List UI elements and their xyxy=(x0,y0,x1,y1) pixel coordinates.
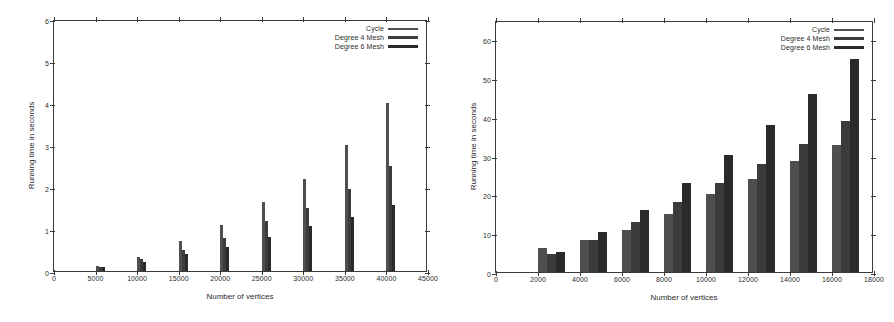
legend-left: CycleDegree 4 MeshDegree 6 Mesh xyxy=(335,25,418,50)
legend-swatch-line xyxy=(834,37,864,40)
bar-right-8000-series-2 xyxy=(682,183,691,272)
legend-swatch-line xyxy=(834,29,864,31)
x-tick-label: 10000 xyxy=(696,276,716,283)
y-tick-mark xyxy=(50,189,55,190)
bar-right-4000-series-0 xyxy=(580,240,589,272)
legend-entry: Cycle xyxy=(366,25,418,32)
y-tick-mark-right xyxy=(871,41,876,42)
bar-left-25000-series-2 xyxy=(268,237,271,271)
bar-left-15000-series-2 xyxy=(185,254,188,271)
plot-frame-right: CycleDegree 4 MeshDegree 6 Mesh 01020304… xyxy=(495,21,873,273)
y-tick-label: 3 xyxy=(45,144,49,151)
bar-right-4000-series-2 xyxy=(598,232,607,272)
x-tick-mark-top xyxy=(706,18,707,23)
x-tick-label: 0 xyxy=(494,276,498,283)
bar-right-16000-series-0 xyxy=(832,145,841,272)
x-tick-mark-top xyxy=(96,17,97,22)
y-tick-label: 50 xyxy=(483,77,491,84)
bar-right-10000-series-1 xyxy=(715,183,724,272)
y-tick-mark-right xyxy=(425,231,430,232)
x-tick-mark-top xyxy=(262,17,263,22)
bar-left-40000-series-2 xyxy=(392,205,395,271)
legend-entry: Degree 6 Mesh xyxy=(335,43,418,50)
x-tick-mark-top xyxy=(874,18,875,23)
x-tick-label: 2000 xyxy=(530,276,546,283)
bar-right-8000-series-1 xyxy=(673,202,682,272)
x-tick-label: 6000 xyxy=(614,276,630,283)
chart-panel-right: CycleDegree 4 MeshDegree 6 Mesh 01020304… xyxy=(447,0,894,322)
bar-right-4000-series-1 xyxy=(589,240,598,272)
y-tick-label: 4 xyxy=(45,102,49,109)
legend-label: Degree 4 Mesh xyxy=(781,35,830,42)
legend-label: Degree 6 Mesh xyxy=(781,44,830,51)
bar-left-35000-series-2 xyxy=(351,217,354,271)
x-tick-label: 0 xyxy=(52,275,56,282)
legend-label: Degree 6 Mesh xyxy=(335,43,384,50)
x-tick-mark-top xyxy=(496,18,497,23)
chart-panel-left: CycleDegree 4 MeshDegree 6 Mesh 01234560… xyxy=(0,0,447,322)
plot-area-left xyxy=(54,21,426,271)
x-tick-label: 25000 xyxy=(252,275,272,282)
x-tick-label: 10000 xyxy=(127,275,147,282)
y-tick-label: 2 xyxy=(45,186,49,193)
x-tick-label: 18000 xyxy=(864,276,884,283)
x-tick-mark-top xyxy=(303,17,304,22)
x-tick-label: 5000 xyxy=(88,275,104,282)
y-tick-mark-right xyxy=(871,196,876,197)
plot-area-right xyxy=(496,22,872,272)
legend-label: Degree 4 Mesh xyxy=(335,34,384,41)
bar-left-5000-series-2 xyxy=(102,267,105,271)
y-tick-mark xyxy=(50,63,55,64)
x-tick-mark-top xyxy=(220,17,221,22)
x-tick-label: 15000 xyxy=(169,275,189,282)
bar-right-6000-series-1 xyxy=(631,222,640,272)
bar-right-6000-series-2 xyxy=(640,210,649,272)
x-tick-mark-top xyxy=(179,17,180,22)
figure-two-panel-bar-charts: CycleDegree 4 MeshDegree 6 Mesh 01234560… xyxy=(0,0,894,322)
bar-right-12000-series-1 xyxy=(757,164,766,272)
y-tick-label: 0 xyxy=(45,270,49,277)
bar-right-16000-series-2 xyxy=(850,59,859,272)
x-tick-mark-top xyxy=(748,18,749,23)
legend-entry: Degree 4 Mesh xyxy=(335,34,418,41)
x-tick-label: 30000 xyxy=(293,275,313,282)
legend-label: Cycle xyxy=(366,25,384,32)
y-tick-label: 5 xyxy=(45,60,49,67)
x-tick-label: 12000 xyxy=(738,276,758,283)
y-tick-label: 20 xyxy=(483,193,491,200)
y-tick-label: 0 xyxy=(487,271,491,278)
y-tick-mark-right xyxy=(425,189,430,190)
y-tick-label: 40 xyxy=(483,115,491,122)
y-tick-mark xyxy=(50,147,55,148)
y-tick-label: 60 xyxy=(483,38,491,45)
x-tick-mark-top xyxy=(538,18,539,23)
y-tick-mark-right xyxy=(871,80,876,81)
bar-right-14000-series-0 xyxy=(790,161,799,272)
legend-swatch-line xyxy=(388,28,418,30)
bar-right-12000-series-2 xyxy=(766,125,775,272)
legend-entry: Degree 6 Mesh xyxy=(781,44,864,51)
y-tick-mark-right xyxy=(871,235,876,236)
x-tick-mark-top xyxy=(664,18,665,23)
x-axis-title-right: Number of vertices xyxy=(495,293,873,302)
legend-entry: Degree 4 Mesh xyxy=(781,35,864,42)
legend-entry: Cycle xyxy=(812,26,864,33)
x-tick-mark-top xyxy=(790,18,791,23)
x-tick-label: 4000 xyxy=(572,276,588,283)
x-axis-title-left: Number of vertices xyxy=(53,292,427,301)
y-axis-title-right: Running time in seconds xyxy=(469,67,478,227)
y-tick-mark xyxy=(492,119,497,120)
y-tick-mark-right xyxy=(871,119,876,120)
x-tick-label: 16000 xyxy=(822,276,842,283)
plot-frame-left: CycleDegree 4 MeshDegree 6 Mesh 01234560… xyxy=(53,20,427,272)
x-tick-mark-top xyxy=(345,17,346,22)
y-tick-mark-right xyxy=(425,63,430,64)
x-tick-mark-top xyxy=(137,17,138,22)
bar-right-12000-series-0 xyxy=(748,179,757,272)
x-tick-label: 40000 xyxy=(376,275,396,282)
bar-right-14000-series-2 xyxy=(808,94,817,272)
x-tick-label: 45000 xyxy=(418,275,438,282)
legend-label: Cycle xyxy=(812,26,830,33)
bar-right-2000-series-0 xyxy=(538,248,547,272)
bar-right-10000-series-2 xyxy=(724,155,733,272)
